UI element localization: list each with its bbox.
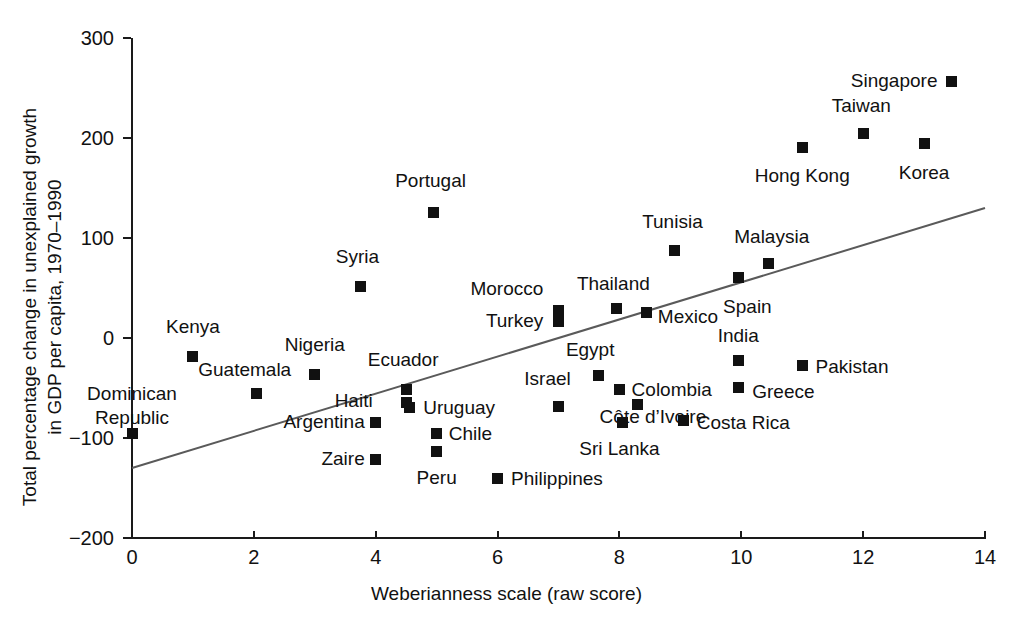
data-point	[370, 417, 381, 428]
data-point	[370, 454, 381, 465]
data-point-label: Egypt	[566, 340, 615, 359]
data-point	[431, 428, 442, 439]
y-axis-title-line2: in GDP per capita, 1970–1990	[44, 179, 65, 434]
data-point-label: Guatemala	[198, 360, 291, 379]
data-point-label: Turkey	[486, 311, 543, 330]
data-point-label: Portugal	[395, 171, 466, 190]
data-point-label: DominicanRepublic	[87, 382, 177, 430]
data-point-label: Israel	[524, 369, 570, 388]
data-point	[251, 388, 262, 399]
data-point	[492, 473, 503, 484]
data-point	[428, 207, 439, 218]
data-point-label: Uruguay	[423, 398, 495, 417]
data-point-label: Ecuador	[368, 350, 439, 369]
data-point-label: Zaire	[321, 449, 364, 468]
data-point	[641, 307, 652, 318]
data-point-label: Thailand	[577, 274, 650, 293]
data-point-label: Tunisia	[642, 212, 703, 231]
data-point-label: Spain	[723, 297, 772, 316]
data-point-label: Nigeria	[285, 335, 345, 354]
data-point-label: India	[718, 326, 759, 345]
data-point-label: Chile	[449, 424, 492, 443]
data-point	[617, 417, 628, 428]
x-axis-title: Weberianness scale (raw score)	[0, 583, 1013, 605]
data-point-label: Pakistan	[816, 357, 889, 376]
data-point-label: Morocco	[470, 279, 543, 298]
data-point-label: Haiti	[335, 391, 373, 410]
data-point-label: Korea	[899, 163, 950, 182]
data-point	[858, 128, 869, 139]
data-point-label: Côte d’Ivoire	[600, 407, 707, 426]
data-point-label: Greece	[752, 382, 814, 401]
data-point	[733, 272, 744, 283]
data-point	[797, 142, 808, 153]
data-point	[763, 258, 774, 269]
data-point-label: Mexico	[658, 307, 718, 326]
data-point	[593, 370, 604, 381]
data-point	[401, 384, 412, 395]
data-point	[678, 415, 689, 426]
data-point	[919, 138, 930, 149]
data-point	[669, 245, 680, 256]
y-axis-title-line1: Total percentage change in unexplained g…	[19, 108, 40, 506]
data-point-label: Syria	[336, 247, 379, 266]
data-point	[733, 355, 744, 366]
data-points-layer: KenyaNigeriaGuatemalaDominicanRepublicEc…	[0, 0, 1013, 630]
data-point	[614, 384, 625, 395]
data-point	[946, 76, 957, 87]
data-point	[309, 369, 320, 380]
data-point	[797, 360, 808, 371]
data-point-label: Singapore	[851, 71, 938, 90]
data-point-label: Argentina	[283, 412, 364, 431]
data-point	[355, 281, 366, 292]
data-point-label: Peru	[417, 468, 457, 487]
data-point-label: Colombia	[632, 380, 712, 399]
data-point-label: Philippines	[511, 469, 603, 488]
data-point	[553, 305, 564, 316]
data-point	[611, 303, 622, 314]
data-point	[733, 382, 744, 393]
data-point	[187, 351, 198, 362]
data-point	[553, 316, 564, 327]
data-point-label: Taiwan	[832, 96, 891, 115]
data-point	[404, 402, 415, 413]
data-point-label: Hong Kong	[755, 166, 850, 185]
data-point	[553, 401, 564, 412]
data-point-label: Kenya	[166, 317, 220, 336]
data-point	[431, 446, 442, 457]
data-point-label: Malaysia	[734, 227, 809, 246]
data-point-label: Costa Rica	[697, 413, 790, 432]
y-axis-title: Total percentage change in unexplained g…	[17, 47, 67, 567]
scatter-plot-figure: 3002001000−100−20002468101214 KenyaNiger…	[0, 0, 1013, 630]
data-point-label: Sri Lanka	[579, 439, 659, 458]
